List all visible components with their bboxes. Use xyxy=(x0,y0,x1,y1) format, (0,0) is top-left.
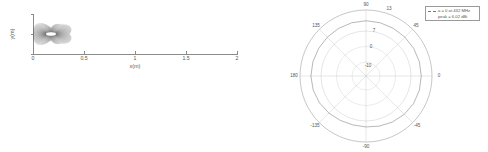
vector-rosette xyxy=(33,8,123,68)
polar-angle-label--135: -135 xyxy=(310,124,319,129)
polar-angle-label-0: 0 xyxy=(438,74,441,79)
x-tick-label: 1.5 xyxy=(182,56,189,61)
polar-angle-label--45: -45 xyxy=(414,124,421,129)
polar-grid xyxy=(300,10,432,142)
polar-angle-label-180: 180 xyxy=(290,74,298,79)
polar-angle-label-135: 135 xyxy=(312,24,320,29)
y-axis-label: y(m) xyxy=(9,29,15,40)
legend-line-swatch xyxy=(428,11,436,12)
polar-angle-label--90: -90 xyxy=(363,145,370,150)
x-tick-label: 2 xyxy=(236,56,239,61)
polar-angle-label-90: 90 xyxy=(363,3,368,8)
rosette-core xyxy=(46,32,56,36)
legend-label-series: a = 0 at 432 MHz xyxy=(438,9,470,13)
polar-angle-label-45: 45 xyxy=(413,24,418,29)
polar-radial-label-0: 0 xyxy=(370,45,373,50)
polar-plot: 90 135 45 180 0 -135 -45 -90 13 7 0 -10 xyxy=(244,0,488,152)
legend-label-peak: peak = 6.02 dBi xyxy=(438,15,467,19)
figure-canvas: 0 0.5 1 1.5 2 0.2 0 -0.2 x(m) y(m) xyxy=(0,0,488,152)
cartesian-plot: 0 0.5 1 1.5 2 0.2 0 -0.2 x(m) y(m) xyxy=(0,0,244,152)
polar-radial-label-7: 7 xyxy=(373,29,376,34)
polar-radial-label--10: -10 xyxy=(365,64,372,69)
legend-entry-peak: peak = 6.02 dBi xyxy=(428,14,477,20)
x-tick-mark xyxy=(237,51,238,54)
x-tick-label: 1 xyxy=(134,56,137,61)
x-tick-mark xyxy=(186,51,187,54)
polar-radial-label-13: 13 xyxy=(386,7,391,12)
x-tick-mark xyxy=(135,51,136,54)
polar-legend: a = 0 at 432 MHz peak = 6.02 dBi xyxy=(425,6,480,21)
x-axis-label: x(m) xyxy=(130,63,141,69)
